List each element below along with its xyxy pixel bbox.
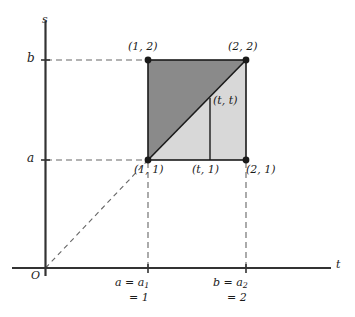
s-axis-label: s <box>42 14 48 26</box>
point-label-diagonal: (t, t) <box>213 95 237 107</box>
point-label-bottom-mid: (t, 1) <box>192 164 219 176</box>
vertex-dot-top-right <box>243 57 250 64</box>
t-tick-a1-row1: a = a1 <box>115 276 149 289</box>
diagonal-dashed-ray <box>46 160 149 268</box>
t-axis-label: t <box>336 259 340 271</box>
t-tick-a1-row2: = 1 <box>115 291 149 305</box>
t-tick-a2-row1: b = a2 <box>213 276 248 289</box>
t-tick-a2-row2: = 2 <box>213 291 248 305</box>
t-tick-label-a2: b = a2 = 2 <box>213 276 248 304</box>
point-label-bottom-right: (2, 1) <box>246 164 276 176</box>
point-label-bottom-left: (1, 1) <box>134 164 164 176</box>
t-tick-label-a1: a = a1 = 1 <box>115 276 149 304</box>
s-tick-label-a: a <box>27 152 34 165</box>
point-label-top-right: (2, 2) <box>228 41 258 53</box>
math-diagram-canvas <box>0 0 355 317</box>
point-label-top-left: (1, 2) <box>128 41 158 53</box>
t-tick-a1-subscript: 1 <box>144 281 149 290</box>
origin-label: O <box>31 270 40 282</box>
s-tick-label-b: b <box>27 52 35 65</box>
t-tick-a2-subscript: 2 <box>243 281 248 290</box>
vertex-dot-top-left <box>145 57 152 64</box>
